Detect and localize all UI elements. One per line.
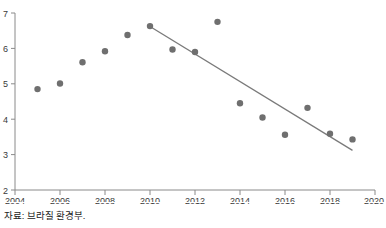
x-axis-tick-labels: 2004 2006 2008 2010 2012 2014 2016 2018 … xyxy=(5,196,384,205)
caption-divider xyxy=(0,202,386,203)
x-tick-label-2012: 2012 xyxy=(185,196,205,205)
x-tick-label-2018: 2018 xyxy=(320,196,340,205)
data-point[interactable] xyxy=(34,86,40,92)
x-tick-label-2008: 2008 xyxy=(95,196,115,205)
x-axis-ticks xyxy=(15,190,375,195)
y-tick-label-3: 3 xyxy=(3,150,8,160)
x-tick-label-2020: 2020 xyxy=(364,196,384,205)
data-point[interactable] xyxy=(282,132,288,138)
data-point[interactable] xyxy=(192,49,198,55)
data-point[interactable] xyxy=(327,131,333,137)
data-point[interactable] xyxy=(79,59,85,65)
data-point[interactable] xyxy=(237,100,243,106)
y-tick-label-5: 5 xyxy=(3,79,8,89)
trend-line xyxy=(150,26,353,150)
data-point[interactable] xyxy=(214,19,220,25)
y-tick-label-6: 6 xyxy=(3,44,8,54)
data-point[interactable] xyxy=(57,80,63,86)
scatter-plot: 7 6 5 4 3 2 2004 2006 2008 2010 2012 20 xyxy=(0,0,386,205)
y-tick-label-7: 7 xyxy=(3,9,8,19)
x-tick-label-2004: 2004 xyxy=(5,196,25,205)
data-point[interactable] xyxy=(349,136,355,142)
y-tick-label-4: 4 xyxy=(3,115,8,125)
data-point[interactable] xyxy=(124,32,130,38)
x-tick-label-2014: 2014 xyxy=(230,196,250,205)
data-point[interactable] xyxy=(304,105,310,111)
data-points xyxy=(34,19,355,143)
x-tick-label-2006: 2006 xyxy=(50,196,70,205)
x-tick-label-2016: 2016 xyxy=(275,196,295,205)
x-tick-label-2010: 2010 xyxy=(140,196,160,205)
y-axis-tick-labels: 7 6 5 4 3 2 xyxy=(3,9,8,196)
data-point[interactable] xyxy=(147,23,153,29)
chart-figure: 7 6 5 4 3 2 2004 2006 2008 2010 2012 20 xyxy=(0,0,386,228)
trend-line-segment xyxy=(150,26,353,150)
source-caption: 자료: 브라질 환경부. xyxy=(4,208,85,222)
y-axis-ticks xyxy=(11,13,15,190)
data-point[interactable] xyxy=(102,48,108,54)
data-point[interactable] xyxy=(259,114,265,120)
y-tick-label-2: 2 xyxy=(3,186,8,196)
data-point[interactable] xyxy=(169,46,175,52)
axis-lines xyxy=(15,13,375,190)
